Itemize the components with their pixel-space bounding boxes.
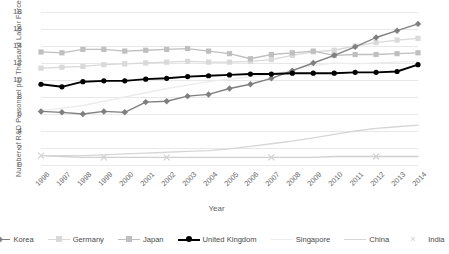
y-tick-label: 18 <box>0 8 22 16</box>
y-tick-label: 14 <box>0 42 22 50</box>
legend-item-japan[interactable]: Japan <box>111 235 171 244</box>
legend-swatch-x-icon: × <box>403 235 425 244</box>
series-layer <box>41 12 418 165</box>
legend-swatch-diamond-icon <box>0 235 10 244</box>
y-tick-label: 2 <box>0 144 22 152</box>
legend-swatch-none-icon <box>271 235 293 244</box>
chart-legend: KoreaGermanyJapanUnited KingdomSingapore… <box>0 231 433 247</box>
legend-swatch-circle-icon <box>178 235 200 244</box>
legend-item-india[interactable]: ×India <box>396 235 449 244</box>
y-tick-label: 4 <box>0 127 22 135</box>
legend-item-china[interactable]: China <box>337 235 396 244</box>
legend-item-korea[interactable]: Korea <box>0 235 41 244</box>
series-japan <box>38 46 420 61</box>
y-tick-label: 6 <box>0 110 22 118</box>
legend-swatch-square-icon <box>118 235 140 244</box>
gridline <box>41 165 418 166</box>
legend-item-singapore[interactable]: Singapore <box>264 235 338 244</box>
legend-label: United Kingdom <box>203 235 257 244</box>
legend-label: China <box>369 235 389 244</box>
series-china <box>41 125 418 156</box>
legend-label: Japan <box>143 235 164 244</box>
legend-label: Germany <box>73 235 104 244</box>
legend-swatch-square-icon <box>48 235 70 244</box>
series-india <box>38 153 418 161</box>
y-tick-label: 10 <box>0 76 22 84</box>
legend-label: India <box>428 235 444 244</box>
y-tick-label: 0 <box>0 161 22 169</box>
legend-label: Korea <box>13 235 33 244</box>
legend-item-germany[interactable]: Germany <box>41 235 111 244</box>
legend-label: Singapore <box>296 235 331 244</box>
legend-swatch-none-icon <box>344 235 366 244</box>
y-tick-label: 12 <box>0 59 22 67</box>
legend-item-united-kingdom[interactable]: United Kingdom <box>171 235 264 244</box>
y-tick-label: 8 <box>0 93 22 101</box>
x-axis-title: Year <box>0 204 433 213</box>
y-tick-label: 16 <box>0 25 22 33</box>
